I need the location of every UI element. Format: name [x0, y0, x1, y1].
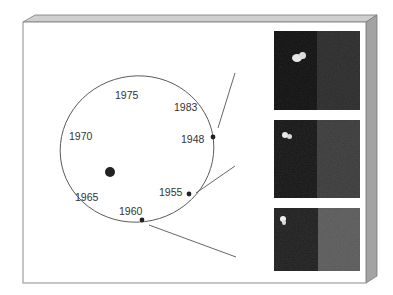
image-panel-1955 [274, 120, 360, 198]
point-1960 [140, 218, 145, 223]
star-dot [105, 167, 115, 177]
companion-blob [282, 220, 286, 225]
label-1970: 1970 [69, 130, 92, 142]
label-1965: 1965 [75, 191, 98, 203]
companion-blob [287, 134, 292, 139]
point-1948 [211, 135, 216, 140]
label-1960: 1960 [119, 205, 142, 217]
image-panel-1948 [274, 31, 360, 110]
image-panel-1960 [274, 208, 360, 271]
frame-top-face [23, 15, 377, 22]
frame-side-face [366, 15, 377, 283]
label-1983: 1983 [174, 101, 197, 113]
diagram-stage: 1975 1983 1970 1948 1965 1955 1960 [0, 0, 393, 295]
label-1955: 1955 [159, 186, 182, 198]
label-1948: 1948 [181, 133, 204, 145]
companion-blob [299, 52, 306, 59]
label-1975: 1975 [115, 89, 138, 101]
point-1955 [187, 192, 192, 197]
